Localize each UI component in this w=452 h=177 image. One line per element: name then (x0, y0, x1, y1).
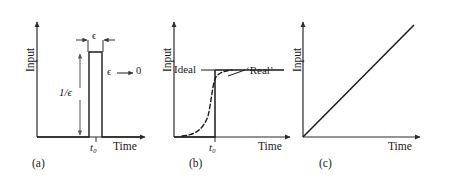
panel-b-caption: (b) (189, 157, 202, 169)
panel-a-amplitude-label: 1/ϵ (59, 86, 72, 98)
panel-a-epsilon-width-label: ϵ (92, 30, 96, 41)
panel-b-t0-label: t₀ (209, 141, 216, 153)
panel-a-axes (37, 22, 145, 137)
panel-c-x-axis-label: Time (388, 140, 412, 152)
panel-b-x-axis-label: Time (258, 140, 282, 152)
panel-c-y-axis-label: Input (291, 48, 303, 72)
panel-a-limit-value-label: 0 (136, 65, 141, 76)
panel-b-axes (174, 22, 290, 137)
panel-b-real-label: ‘Real’ (246, 64, 273, 76)
panel-a-caption: (a) (32, 157, 45, 169)
panel-a-t0-label: t₀ (90, 141, 97, 153)
panel-a-epsilon-width-dimension (76, 40, 115, 52)
ramp-trace (303, 25, 414, 137)
ideal-step-trace (174, 70, 284, 137)
figure-three-test-inputs: Input Time t₀ 1/ϵ ϵ ϵ 0 (a) Input Time t… (0, 0, 452, 177)
panel-b-ideal-step-curve (174, 70, 284, 137)
panel-b-real-step-curve (182, 70, 232, 136)
panel-a-impulse-pulse (37, 52, 140, 137)
panel-a-y-axis-label: Input (24, 48, 36, 72)
panel-c-caption: (c) (319, 157, 332, 169)
impulse-rectangle-trace (37, 52, 140, 137)
panel-b-y-axis-label: Input (161, 48, 173, 72)
panel-c-ramp-curve (303, 25, 414, 137)
panel-a-limit-epsilon-label: ϵ (107, 66, 111, 77)
real-leader-line (228, 70, 245, 76)
real-step-trace (182, 70, 232, 136)
panel-a-x-axis-label: Time (113, 140, 137, 152)
panel-b-ideal-label: Ideal (174, 63, 196, 75)
